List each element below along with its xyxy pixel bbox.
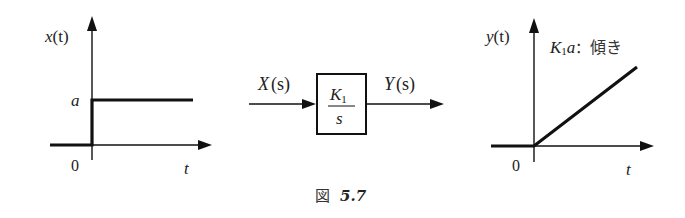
input-y-label: x(t) [44, 27, 69, 46]
transfer-block-diagram: X(s) K1 s Y(s) [249, 74, 444, 134]
output-signal-label: Y(s) [384, 74, 415, 95]
figure-canvas: x(t) a 0 t X(s) K1 s Y(s) [0, 0, 685, 218]
input-y-axis-arrow-icon [87, 16, 97, 31]
ramp-signal-line [491, 67, 637, 146]
input-x-label: t [184, 159, 190, 178]
figure-caption: 図5.7 [315, 187, 367, 205]
output-x-label: t [626, 160, 632, 179]
input-signal-label: X(s) [257, 74, 290, 95]
input-signal-arrowhead-icon [302, 99, 316, 109]
step-level-label: a [71, 91, 80, 110]
output-ramp-graph: y(t) K1a：傾き 0 t [484, 18, 654, 179]
slope-annotation: K1a：傾き [549, 38, 622, 57]
input-step-graph: x(t) a 0 t [44, 16, 212, 178]
output-signal-arrowhead-icon [430, 99, 444, 109]
transfer-denominator: s [336, 109, 343, 128]
input-origin-label: 0 [71, 157, 79, 174]
output-y-label: y(t) [484, 27, 510, 46]
output-x-axis-arrow-icon [640, 141, 654, 151]
output-y-axis-arrow-icon [529, 18, 539, 33]
output-origin-label: 0 [512, 157, 520, 174]
input-x-axis-arrow-icon [198, 140, 212, 150]
